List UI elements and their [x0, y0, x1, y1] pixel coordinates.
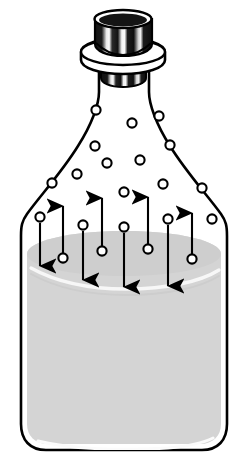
vapor-molecule [197, 183, 206, 192]
vapor-molecule [90, 141, 99, 150]
vapor-molecule [102, 158, 111, 167]
vapor-molecule [119, 187, 128, 196]
condensing-molecule [119, 222, 128, 231]
vapor-molecule [165, 140, 174, 149]
vapor-molecule [127, 118, 136, 127]
vapor-molecule [158, 179, 167, 188]
bottle-diagram-svg [0, 0, 247, 467]
stopper[interactable] [95, 10, 153, 56]
evaporating-molecule [97, 246, 106, 255]
condensing-molecule [78, 220, 87, 229]
stopper-top-recess [99, 14, 147, 27]
evaporating-molecule [58, 253, 67, 262]
vapor-molecule [135, 155, 144, 164]
vapor-molecule [91, 105, 100, 114]
vapor-pressure-figure [0, 0, 247, 467]
evaporating-molecule [143, 244, 152, 253]
condensing-molecule [163, 214, 172, 223]
evaporating-molecule [187, 254, 196, 263]
vapor-molecule [47, 178, 56, 187]
vapor-molecule [207, 214, 216, 223]
vapor-molecule [154, 111, 163, 120]
vapor-molecule [72, 169, 81, 178]
condensing-molecule [35, 212, 44, 221]
